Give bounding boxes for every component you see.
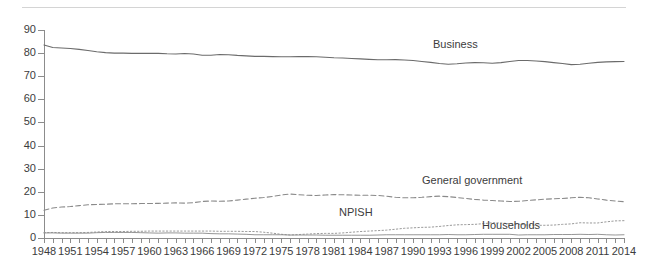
x-tick-mark [519,238,520,243]
x-tick-mark [106,238,107,243]
x-tick-mark [615,238,616,243]
x-tick-mark [264,238,265,243]
x-tick-mark [580,238,581,243]
x-tick-mark [545,238,546,243]
x-tick-mark [589,238,590,243]
x-tick-mark [149,238,150,243]
header-divider [22,7,626,8]
x-tick-mark [475,238,476,243]
x-tick-mark [501,238,502,243]
chart-figure: 0102030405060708090 19481951195419571960… [0,0,648,272]
x-tick-mark [255,238,256,243]
x-tick-mark [316,238,317,243]
x-tick-mark [387,238,388,243]
x-tick-mark [237,238,238,243]
y-tick-label: 20 [10,186,36,197]
x-tick-mark [510,238,511,243]
x-tick-mark [97,238,98,243]
y-tick-label: 90 [10,24,36,35]
x-tick-mark [536,238,537,243]
x-tick-mark [439,238,440,243]
series-label-npish: NPISH [339,206,373,218]
x-tick-mark [220,238,221,243]
x-tick-mark [167,238,168,243]
x-tick-mark [483,238,484,243]
x-tick-mark [88,238,89,243]
y-tick-label: 10 [10,209,36,220]
x-tick-mark [132,238,133,243]
x-tick-mark [413,238,414,243]
x-tick-mark [554,238,555,243]
x-tick-mark [229,238,230,243]
y-axis-line [44,30,45,239]
x-tick-mark [185,238,186,243]
x-tick-mark [114,238,115,243]
x-tick-mark [70,238,71,243]
x-tick-mark [457,238,458,243]
x-tick-mark [62,238,63,243]
y-tick-mark [38,99,44,100]
x-tick-mark [141,238,142,243]
y-tick-label: 0 [10,232,36,243]
y-tick-label: 60 [10,93,36,104]
series-label-households: Households [482,219,540,231]
x-tick-mark [158,238,159,243]
x-tick-mark [343,238,344,243]
y-tick-label: 50 [10,116,36,127]
x-tick-mark [571,238,572,243]
x-tick-label: 2014 [609,245,639,257]
x-tick-mark [44,238,45,243]
y-tick-mark [38,76,44,77]
series-line-business [44,45,624,65]
x-tick-mark [334,238,335,243]
x-tick-mark [396,238,397,243]
x-tick-mark [53,238,54,243]
series-label-business: Business [433,38,478,50]
y-tick-label: 40 [10,140,36,151]
x-tick-mark [123,238,124,243]
y-tick-mark [38,30,44,31]
x-tick-mark [246,238,247,243]
y-tick-label: 80 [10,47,36,58]
x-tick-mark [624,238,625,243]
x-tick-mark [369,238,370,243]
x-tick-mark [466,238,467,243]
y-tick-label: 70 [10,70,36,81]
x-tick-mark [272,238,273,243]
x-tick-mark [290,238,291,243]
series-line-households [44,232,624,235]
chart-plot-area [0,0,648,272]
x-tick-mark [352,238,353,243]
x-tick-mark [360,238,361,243]
x-tick-mark [281,238,282,243]
series-label-general-government: General government [422,174,522,186]
x-tick-mark [527,238,528,243]
x-tick-mark [299,238,300,243]
y-tick-mark [38,192,44,193]
x-tick-mark [492,238,493,243]
x-tick-mark [176,238,177,243]
y-tick-mark [38,169,44,170]
x-tick-mark [193,238,194,243]
x-tick-mark [422,238,423,243]
x-axis-labels: 1948195119541957196019631966196919721975… [0,245,648,261]
y-tick-mark [38,122,44,123]
x-tick-mark [598,238,599,243]
y-tick-mark [38,53,44,54]
y-tick-label: 30 [10,163,36,174]
y-tick-mark [38,146,44,147]
x-tick-mark [325,238,326,243]
x-tick-mark [378,238,379,243]
x-tick-mark [404,238,405,243]
x-tick-mark [562,238,563,243]
x-tick-mark [202,238,203,243]
x-tick-mark [431,238,432,243]
x-tick-mark [79,238,80,243]
x-tick-mark [308,238,309,243]
x-tick-mark [448,238,449,243]
series-line-general-government [44,194,624,210]
x-tick-mark [606,238,607,243]
x-tick-mark [211,238,212,243]
y-axis-labels: 0102030405060708090 [6,0,36,272]
y-tick-mark [38,215,44,216]
